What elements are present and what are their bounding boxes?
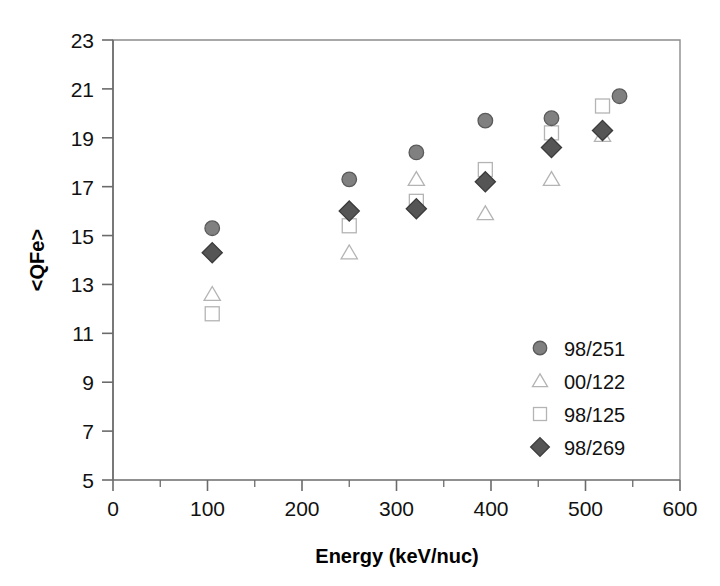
y-tick-label: 19 xyxy=(71,127,94,150)
y-tick-label: 23 xyxy=(71,29,94,52)
y-tick-label: 9 xyxy=(82,371,94,394)
legend-label: 00/122 xyxy=(564,371,625,393)
data-point xyxy=(478,113,493,128)
chart-container: 57911131517192123 0100200300400500600 En… xyxy=(0,0,720,586)
data-point xyxy=(205,221,220,236)
legend-marker xyxy=(534,408,547,421)
y-axis-tick-labels: 57911131517192123 xyxy=(71,29,94,492)
y-tick-label: 15 xyxy=(71,225,94,248)
y-tick-label: 11 xyxy=(72,322,94,345)
x-tick-label: 500 xyxy=(568,497,603,520)
y-axis-ticks xyxy=(102,40,113,480)
y-axis-title: <QFe> xyxy=(26,229,48,291)
data-point xyxy=(342,172,357,187)
x-tick-label: 200 xyxy=(284,497,319,520)
x-tick-label: 300 xyxy=(379,497,414,520)
x-tick-label: 0 xyxy=(107,497,119,520)
x-axis-tick-labels: 0100200300400500600 xyxy=(107,497,697,520)
data-point xyxy=(612,89,627,104)
y-tick-label: 5 xyxy=(82,469,94,492)
data-point xyxy=(409,145,424,160)
y-tick-label: 13 xyxy=(71,273,94,296)
y-tick-label: 7 xyxy=(82,420,94,443)
x-axis-ticks xyxy=(113,480,680,491)
x-axis-title: Energy (keV/nuc) xyxy=(315,545,478,567)
data-point xyxy=(205,307,219,321)
legend-label: 98/251 xyxy=(564,338,625,360)
x-tick-label: 600 xyxy=(662,497,697,520)
x-tick-label: 100 xyxy=(190,497,225,520)
data-point xyxy=(596,99,610,113)
legend-label: 98/269 xyxy=(564,437,625,459)
y-tick-label: 17 xyxy=(71,176,94,199)
scatter-plot: 57911131517192123 0100200300400500600 En… xyxy=(0,0,720,586)
legend-marker xyxy=(533,341,547,355)
y-tick-label: 21 xyxy=(71,78,94,101)
legend-label: 98/125 xyxy=(564,404,625,426)
data-point xyxy=(544,111,559,126)
x-tick-label: 400 xyxy=(473,497,508,520)
